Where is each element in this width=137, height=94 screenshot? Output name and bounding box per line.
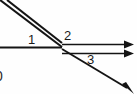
ray-diagram (0, 0, 137, 94)
diagram-canvas: 1 2 3 0 (0, 0, 137, 94)
ray-label-1: 1 (28, 33, 35, 46)
arrow-head-upper-right (124, 41, 134, 49)
ray-label-2: 2 (64, 29, 71, 42)
arrow-head-lower-right (124, 50, 134, 58)
arrow-head-diagonal-bottom-right (122, 82, 134, 94)
outgoing-diagonal-ray (62, 49, 127, 88)
clipped-edge-glyph: 0 (0, 69, 3, 83)
ray-label-3: 3 (87, 53, 94, 66)
